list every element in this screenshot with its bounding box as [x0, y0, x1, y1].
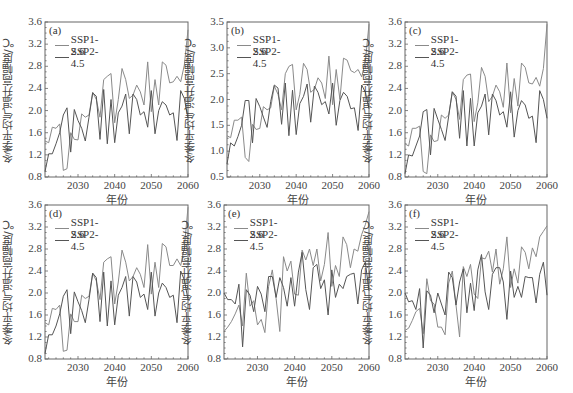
legend-swatch	[415, 228, 429, 229]
panel-label: (f)	[409, 207, 420, 219]
x-tick-label: 2050	[496, 361, 526, 373]
legend: SSP1-2.6SSP2-4.5	[415, 222, 463, 246]
y-tick-label: 1.6	[376, 308, 402, 320]
y-tick-label: 2.4	[376, 264, 402, 276]
x-tick-label: 2060	[532, 361, 562, 373]
y-axis-label: 冬季平均气温升高幅度/℃	[361, 211, 377, 353]
x-tick-label: 2030	[423, 361, 453, 373]
plot-area	[0, 0, 573, 393]
x-axis-label: 年份	[446, 373, 506, 389]
x-tick-label: 2040	[459, 361, 489, 373]
y-tick-label: 3.6	[376, 198, 402, 210]
y-tick-label: 0.8	[376, 352, 402, 364]
y-tick-label: 2.8	[376, 242, 402, 254]
legend-label: SSP2-4.5	[431, 228, 463, 252]
y-tick-label: 1.2	[376, 330, 402, 342]
legend-swatch	[415, 240, 429, 241]
y-tick-label: 3.2	[376, 220, 402, 232]
series-line-ssp2-45	[405, 255, 547, 349]
legend-entry: SSP2-4.5	[415, 234, 463, 246]
y-tick-label: 2.0	[376, 286, 402, 298]
